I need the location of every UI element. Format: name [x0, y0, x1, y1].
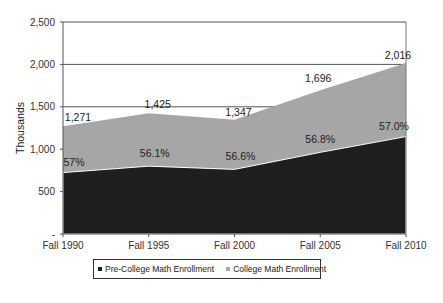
x-tick-label: Fall 2005: [300, 240, 342, 251]
total-value-label: 1,425: [145, 98, 171, 110]
x-tick-label: Fall 1990: [42, 240, 84, 251]
legend-label: Pre-College Math Enrollment: [105, 264, 214, 274]
legend-swatch-college: [226, 267, 230, 271]
percent-label: 57%: [63, 156, 84, 168]
percent-label: 56.8%: [305, 133, 335, 145]
chart-legend: Pre-College Math Enrollment College Math…: [93, 259, 321, 279]
y-tick-label: 1,500: [30, 101, 55, 112]
total-value-label: 1,347: [225, 106, 251, 118]
total-value-label: 1,696: [305, 72, 331, 84]
legend-swatch-pre-college: [98, 267, 102, 271]
chart-areas: [63, 63, 406, 234]
area-chart: -5001,0001,5002,0002,500 Fall 1990Fall 1…: [0, 0, 443, 303]
x-tick-label: Fall 2010: [385, 240, 427, 251]
x-tick-label: Fall 2000: [214, 240, 256, 251]
y-tick-label: 2,000: [30, 59, 55, 70]
percent-label: 56.6%: [226, 150, 256, 162]
legend-label: College Math Enrollment: [233, 264, 326, 274]
x-tick-label: Fall 1995: [128, 240, 170, 251]
y-axis-ticks: -5001,0001,5002,0002,500: [30, 17, 63, 240]
percent-label: 56.1%: [140, 147, 170, 159]
y-tick-label: 500: [38, 186, 55, 197]
percent-label: 57.0%: [379, 120, 409, 132]
y-tick-label: -: [52, 229, 55, 240]
legend-item-college: College Math Enrollment: [226, 264, 326, 274]
x-axis-ticks: Fall 1990Fall 1995Fall 2000Fall 2005Fall…: [42, 234, 427, 251]
legend-item-pre-college: Pre-College Math Enrollment: [98, 264, 214, 274]
y-tick-label: 2,500: [30, 17, 55, 28]
total-value-label: 2,016: [385, 49, 411, 61]
y-tick-label: 1,000: [30, 144, 55, 155]
y-axis-label: Thousands: [14, 102, 26, 154]
total-value-label: 1,271: [65, 111, 91, 123]
